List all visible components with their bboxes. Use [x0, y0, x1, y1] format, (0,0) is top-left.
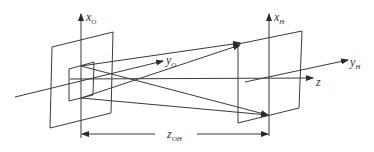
- hologram-x-label: xH: [273, 10, 285, 26]
- distance-label: zOH: [166, 127, 183, 143]
- hologram-geometry-diagram: xO yO xH yH z zOH: [0, 0, 374, 152]
- z-axis-label: z: [315, 75, 321, 89]
- ray-bottom-to-bottom: [81, 98, 268, 115]
- ray-top-to-top: [81, 43, 240, 66]
- ray-top-to-bottom: [81, 66, 268, 115]
- object-x-label: xO: [85, 10, 96, 26]
- object-y-label: yO: [165, 53, 176, 69]
- ray-bottom-to-top: [81, 45, 240, 98]
- z-axis: [70, 78, 313, 79]
- hologram-y-label: yH: [349, 55, 361, 71]
